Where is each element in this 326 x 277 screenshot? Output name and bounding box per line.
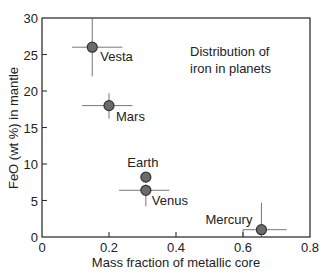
y-tick-label: 10 — [24, 157, 38, 172]
x-tick-label: 0 — [38, 240, 45, 255]
y-tick-label: 20 — [24, 84, 38, 99]
y-tick-label: 0 — [31, 230, 38, 245]
point-label-mercury: Mercury — [205, 212, 252, 227]
scatter-chart: VestaMarsEarthVenusMercury 051015202530 … — [0, 0, 326, 277]
point-label-venus: Venus — [152, 193, 189, 208]
x-tick-label: 0.6 — [234, 240, 252, 255]
point-label-earth: Earth — [127, 155, 158, 170]
data-point-venus — [141, 185, 151, 195]
x-tick-label: 0.4 — [167, 240, 185, 255]
y-axis-ticks: 051015202530 — [24, 11, 47, 245]
chart-annotation-line-1: Distribution of — [190, 44, 270, 59]
y-tick-label: 15 — [24, 121, 38, 136]
x-axis-ticks: 00.20.40.60.8 — [38, 232, 319, 255]
y-tick-label: 30 — [24, 11, 38, 26]
data-point-earth — [141, 172, 151, 182]
x-axis-label: Mass fraction of metallic core — [92, 255, 260, 270]
y-axis-label: FeO (wt %) in mantle — [6, 67, 21, 189]
data-point-mars — [104, 101, 114, 111]
data-point-mercury — [256, 225, 266, 235]
y-tick-label: 5 — [31, 194, 38, 209]
x-tick-label: 0.2 — [100, 240, 118, 255]
point-label-mars: Mars — [116, 109, 145, 124]
x-tick-label: 0.8 — [301, 240, 319, 255]
data-point-vesta — [87, 42, 97, 52]
chart-annotation-line-2: iron in planets — [190, 61, 271, 76]
y-tick-label: 25 — [24, 48, 38, 63]
point-label-vesta: Vesta — [100, 49, 133, 64]
